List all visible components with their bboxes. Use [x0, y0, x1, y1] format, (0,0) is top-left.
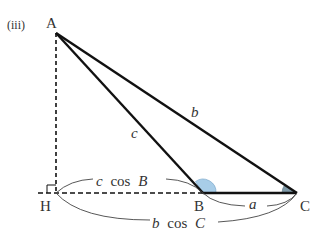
b-cos-C-label: b cos C [152, 215, 206, 231]
point-C-label: C [300, 198, 310, 214]
b-cos-C-fn: cos [167, 215, 187, 231]
c-cos-B-var: c [96, 173, 103, 189]
side-b [56, 33, 297, 193]
side-c [56, 33, 203, 193]
b-cos-C-angle: C [195, 215, 206, 231]
brace-c-cos-B-left [56, 179, 93, 193]
point-H-label: H [40, 198, 51, 214]
c-cos-B-label: c cos B [96, 173, 147, 189]
panel-label: (iii) [7, 18, 25, 32]
diagram-canvas: (iii) A H B C b c a c cos B b cos C [0, 0, 326, 245]
brace-a-right [267, 193, 297, 206]
b-cos-C-var: b [152, 215, 160, 231]
side-b-label: b [191, 104, 199, 120]
side-c-label: c [131, 125, 138, 141]
point-B-label: B [194, 198, 204, 214]
brace-a-left [203, 193, 245, 206]
c-cos-B-angle: B [138, 173, 147, 189]
point-A-label: A [46, 15, 57, 31]
right-angle-mark [47, 185, 56, 193]
angle-B-marker [196, 179, 217, 193]
brace-b-cos-C-right [218, 193, 297, 222]
side-a-label: a [249, 196, 257, 212]
triangle-diagram: (iii) A H B C b c a c cos B b cos C [0, 0, 326, 245]
brace-b-cos-C-left [56, 193, 150, 220]
c-cos-B-fn: cos [110, 173, 130, 189]
